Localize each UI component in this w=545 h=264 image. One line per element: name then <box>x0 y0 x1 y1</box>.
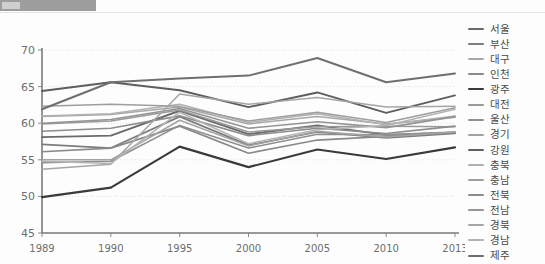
legend-label: 제주 <box>490 250 510 261</box>
legend-item[interactable]: 전남 <box>468 203 510 217</box>
legend-swatch-icon <box>468 73 484 75</box>
chart-legend: 서울부산대구인천광주대전울산경기강원충북충남전북전남경북경남제주 <box>468 14 545 264</box>
chart-series-group <box>42 58 455 197</box>
legend-label: 경북 <box>490 220 510 231</box>
svg-text:60: 60 <box>21 117 35 130</box>
svg-text:55: 55 <box>21 154 35 167</box>
legend-item[interactable]: 울산 <box>468 113 510 127</box>
legend-item[interactable]: 충남 <box>468 173 510 187</box>
legend-swatch-icon <box>468 43 484 45</box>
legend-label: 인천 <box>490 69 510 80</box>
top-header-bar <box>0 0 96 11</box>
chart-page: 455055606570 198919901995200020052010201… <box>0 0 545 264</box>
legend-item[interactable]: 충북 <box>468 158 510 172</box>
legend-item[interactable]: 부산 <box>468 37 510 51</box>
legend-label: 광주 <box>490 84 510 95</box>
legend-label: 강원 <box>490 145 510 156</box>
series-line <box>42 126 455 153</box>
x-axis-ticks: 1989199019952000200520102013 <box>29 233 465 254</box>
legend-item[interactable]: 인천 <box>468 67 510 81</box>
legend-item[interactable]: 강원 <box>468 143 510 157</box>
top-header-swatch <box>2 2 20 9</box>
legend-label: 대구 <box>490 54 510 65</box>
svg-text:2005: 2005 <box>305 243 330 254</box>
legend-swatch-icon <box>468 164 484 166</box>
legend-label: 경기 <box>490 129 510 140</box>
legend-item[interactable]: 대전 <box>468 98 510 112</box>
legend-swatch-icon <box>468 255 484 257</box>
chart-gridlines <box>42 50 455 233</box>
legend-label: 경남 <box>490 235 510 246</box>
svg-text:50: 50 <box>21 190 35 203</box>
legend-label: 서울 <box>490 24 510 35</box>
svg-text:1989: 1989 <box>29 243 54 254</box>
legend-label: 전남 <box>490 205 510 216</box>
legend-swatch-icon <box>468 149 484 151</box>
legend-item[interactable]: 경남 <box>468 233 510 247</box>
legend-item[interactable]: 서울 <box>468 22 510 36</box>
legend-label: 전북 <box>490 190 510 201</box>
legend-item[interactable]: 경기 <box>468 128 510 142</box>
line-chart: 455055606570 198919901995200020052010201… <box>0 14 465 264</box>
legend-item[interactable]: 대구 <box>468 52 510 66</box>
legend-item[interactable]: 전북 <box>468 188 510 202</box>
chart-canvas: 455055606570 198919901995200020052010201… <box>0 14 465 264</box>
svg-text:45: 45 <box>21 227 35 240</box>
svg-text:65: 65 <box>21 81 35 94</box>
legend-swatch-icon <box>468 224 484 226</box>
legend-swatch-icon <box>468 239 484 241</box>
legend-swatch-icon <box>468 88 484 90</box>
svg-text:2000: 2000 <box>236 243 261 254</box>
svg-text:1995: 1995 <box>167 243 192 254</box>
legend-swatch-icon <box>468 194 484 196</box>
legend-swatch-icon <box>468 28 484 30</box>
legend-swatch-icon <box>468 119 484 121</box>
legend-item[interactable]: 광주 <box>468 82 510 96</box>
header-divider <box>0 12 545 13</box>
series-line <box>42 147 455 198</box>
svg-text:70: 70 <box>21 44 35 57</box>
legend-label: 울산 <box>490 114 510 125</box>
legend-label: 충남 <box>490 175 510 186</box>
legend-swatch-icon <box>468 104 484 106</box>
svg-text:2013: 2013 <box>442 243 465 254</box>
svg-text:2010: 2010 <box>373 243 398 254</box>
svg-text:1990: 1990 <box>98 243 123 254</box>
legend-swatch-icon <box>468 134 484 136</box>
legend-item[interactable]: 제주 <box>468 249 510 263</box>
legend-label: 대전 <box>490 99 510 110</box>
y-axis-ticks: 455055606570 <box>21 44 42 240</box>
legend-label: 부산 <box>490 39 510 50</box>
legend-swatch-icon <box>468 179 484 181</box>
legend-label: 충북 <box>490 160 510 171</box>
legend-item[interactable]: 경북 <box>468 218 510 232</box>
legend-swatch-icon <box>468 58 484 60</box>
legend-swatch-icon <box>468 209 484 211</box>
